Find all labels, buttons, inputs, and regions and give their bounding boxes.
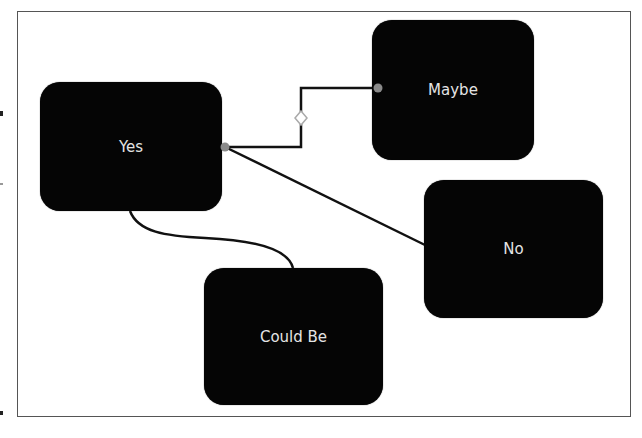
node-label: No [503, 240, 523, 258]
connector-yes-could-be[interactable] [130, 211, 293, 268]
node-label: Maybe [428, 81, 478, 99]
node-no[interactable]: No [424, 180, 603, 318]
connector-yes-no[interactable] [225, 147, 425, 245]
node-label: Yes [119, 138, 143, 156]
node-label: Could Be [260, 328, 327, 346]
midpoint-handle-icon[interactable] [295, 111, 307, 125]
node-yes[interactable]: Yes [40, 82, 222, 211]
node-could-be[interactable]: Could Be [204, 268, 383, 405]
node-maybe[interactable]: Maybe [372, 20, 534, 160]
